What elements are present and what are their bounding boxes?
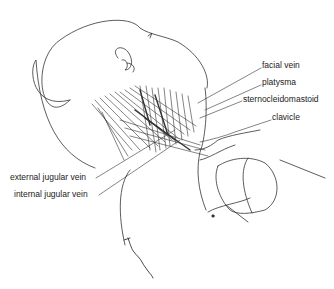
signature-scribble xyxy=(124,238,153,278)
shoulder-outline xyxy=(120,170,130,245)
label-external-jugular-vein: external jugular vein xyxy=(10,173,86,182)
label-facial-vein: facial vein xyxy=(262,61,300,70)
label-clavicle: clavicle xyxy=(272,113,300,122)
leader-lines xyxy=(96,68,271,195)
anatomy-illustration: facial vein platysma sternocleidomastoid… xyxy=(0,0,334,289)
nose-mark xyxy=(148,33,152,38)
neck-anatomy-drawing xyxy=(0,0,334,289)
arm-line xyxy=(280,160,325,178)
label-sternocleidomastoid: sternocleidomastoid xyxy=(243,95,319,104)
chest-outline xyxy=(208,198,250,212)
label-platysma: platysma xyxy=(262,78,296,87)
humeral-head xyxy=(216,158,277,213)
head-outline xyxy=(42,20,208,107)
label-internal-jugular-vein: internal jugular vein xyxy=(14,190,88,199)
ear xyxy=(115,48,134,72)
